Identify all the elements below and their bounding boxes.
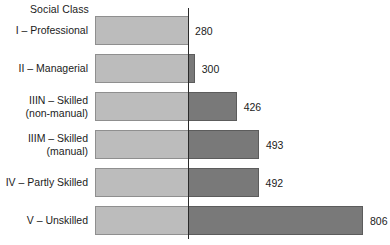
bar xyxy=(95,168,259,197)
bar-value-label: 426 xyxy=(244,101,262,113)
bar-row: IIIN – Skilled (non-manual)426 xyxy=(0,92,390,121)
bar xyxy=(95,206,363,235)
bar-segment-above-reference xyxy=(188,130,259,159)
bar-value-label: 493 xyxy=(266,139,284,151)
reference-line xyxy=(188,8,189,239)
bar-segment-above-reference xyxy=(188,92,237,121)
bar-segment-below-reference xyxy=(95,168,188,197)
bar xyxy=(95,16,188,45)
plot-area: I – Professional280II – Managerial300III… xyxy=(0,0,390,245)
bar-value-label: 806 xyxy=(370,215,388,227)
bar-segment-below-reference xyxy=(95,130,188,159)
bar-segment-below-reference xyxy=(95,54,188,83)
bar-segment-above-reference xyxy=(188,168,259,197)
bar-category-label: II – Managerial xyxy=(0,62,88,75)
bar-segment-below-reference xyxy=(95,16,188,45)
bar-category-label: IIIM – Skilled (manual) xyxy=(0,132,88,157)
bar-segment-below-reference xyxy=(95,206,188,235)
bar-category-label: IV – Partly Skilled xyxy=(0,176,88,189)
bar xyxy=(95,92,237,121)
bar-value-label: 492 xyxy=(266,177,284,189)
bar-row: I – Professional280 xyxy=(0,16,390,45)
bar-segment-above-reference xyxy=(188,54,195,83)
bar-category-label: I – Professional xyxy=(0,24,88,37)
bar xyxy=(95,130,259,159)
bar xyxy=(95,54,195,83)
bar-segment-above-reference xyxy=(188,206,363,235)
bar-row: II – Managerial300 xyxy=(0,54,390,83)
bar-segment-below-reference xyxy=(95,92,188,121)
bar-chart: Social Class I – Professional280II – Man… xyxy=(0,0,390,245)
bar-category-label: IIIN – Skilled (non-manual) xyxy=(0,94,88,119)
bar-row: IV – Partly Skilled492 xyxy=(0,168,390,197)
bar-category-label: V – Unskilled xyxy=(0,214,88,227)
bar-row: IIIM – Skilled (manual)493 xyxy=(0,130,390,159)
bar-row: V – Unskilled806 xyxy=(0,206,390,235)
bar-value-label: 280 xyxy=(195,25,213,37)
bar-value-label: 300 xyxy=(202,63,220,75)
